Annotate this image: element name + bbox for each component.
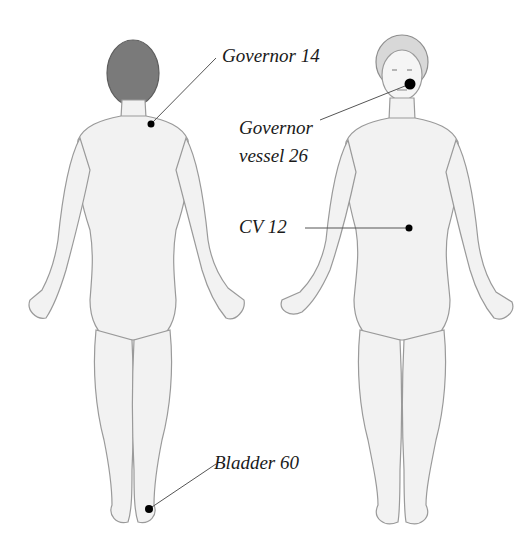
point-dot-bladder-60	[145, 505, 153, 513]
point-dot-governor-14	[148, 121, 155, 128]
label-cv-12: CV 12	[239, 216, 287, 238]
label-governor-vessel-26-line1: Governor	[239, 117, 313, 139]
leader-line-bladder-60	[149, 464, 216, 509]
label-governor-vessel-26-line2: vessel 26	[239, 145, 308, 167]
back-head-hair	[107, 40, 159, 106]
point-dot-governor-vessel-26	[405, 79, 416, 90]
label-governor-14: Governor 14	[222, 45, 320, 67]
acupuncture-diagram: Governor 14 Governor vessel 26 CV 12 Bla…	[0, 0, 529, 542]
back-view-figure	[29, 40, 244, 523]
front-view-figure	[281, 35, 513, 524]
leader-line-governor-14	[151, 58, 216, 124]
point-dot-cv-12	[406, 225, 413, 232]
label-bladder-60: Bladder 60	[214, 452, 299, 474]
